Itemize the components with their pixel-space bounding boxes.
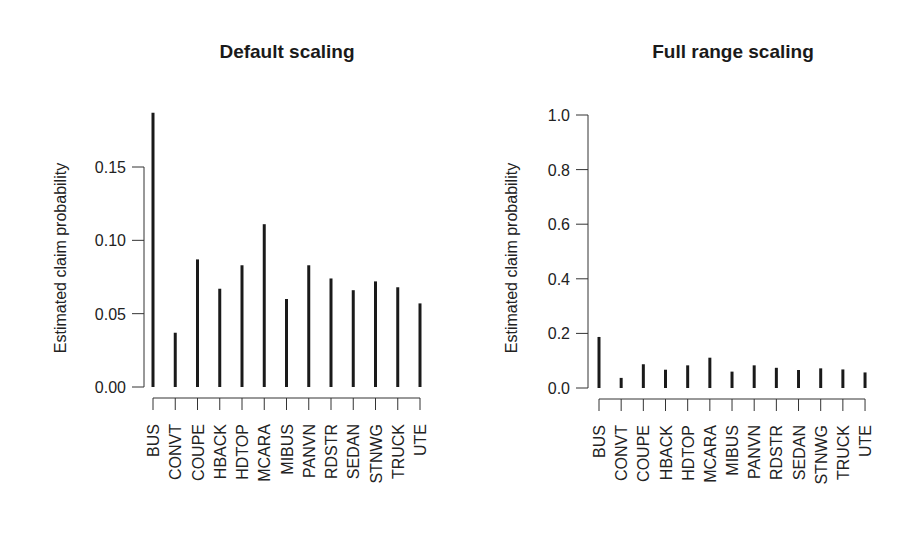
y-tick-label: 0.6 [548, 216, 570, 233]
y-tick-label: 0.4 [548, 271, 570, 288]
x-tick-label: SEDAN [345, 424, 362, 479]
x-tick-label: PANVN [746, 425, 763, 479]
x-tick-label: UTE [412, 424, 429, 456]
x-tick-label: COUPE [635, 425, 652, 482]
chart-full-range-scaling: Full range scaling Estimated claim proba… [503, 41, 874, 485]
x-axis: BUSCONVTCOUPEHBACKHDTOPMCARAMIBUSPANVNRD… [145, 398, 429, 484]
x-tick-label: BUS [145, 424, 162, 457]
y-tick-label: 0.10 [95, 232, 126, 249]
y-tick-label: 0.0 [548, 380, 570, 397]
x-tick-label: MIBUS [279, 424, 296, 475]
figure: Default scaling Estimated claim probabil… [0, 0, 911, 545]
y-axis: 0.000.050.100.15 [95, 159, 144, 396]
y-tick-label: 0.15 [95, 159, 126, 176]
chart-title: Default scaling [219, 41, 354, 62]
bar-series [153, 113, 420, 387]
x-tick-label: RDSTR [768, 425, 785, 480]
x-tick-label: BUS [591, 425, 608, 458]
x-tick-label: HBACK [658, 425, 675, 480]
x-tick-label: PANVN [301, 424, 318, 478]
x-tick-label: RDSTR [323, 424, 340, 479]
y-tick-label: 0.2 [548, 325, 570, 342]
x-tick-label: COUPE [190, 424, 207, 481]
x-tick-label: MCARA [702, 425, 719, 483]
x-tick-label: STNWG [368, 424, 385, 484]
bar-series [599, 337, 865, 388]
y-axis: 0.00.20.40.60.81.0 [548, 107, 588, 397]
chart-default-scaling: Default scaling Estimated claim probabil… [52, 41, 429, 484]
y-tick-label: 0.00 [95, 379, 126, 396]
y-tick-label: 0.8 [548, 162, 570, 179]
x-tick-label: TRUCK [835, 425, 852, 480]
x-tick-label: CONVT [167, 424, 184, 480]
x-tick-label: UTE [857, 425, 874, 457]
x-tick-label: SEDAN [791, 425, 808, 480]
x-tick-label: MIBUS [724, 425, 741, 476]
x-tick-label: MCARA [256, 424, 273, 482]
x-tick-label: HDTOP [680, 425, 697, 481]
x-tick-label: HDTOP [234, 424, 251, 480]
x-tick-label: TRUCK [390, 424, 407, 479]
x-axis: BUSCONVTCOUPEHBACKHDTOPMCARAMIBUSPANVNRD… [591, 399, 874, 485]
x-tick-label: CONVT [613, 425, 630, 481]
y-tick-label: 1.0 [548, 107, 570, 124]
y-tick-label: 0.05 [95, 306, 126, 323]
y-axis-label: Estimated claim probability [52, 163, 69, 353]
chart-title: Full range scaling [652, 41, 814, 62]
x-tick-label: HBACK [212, 424, 229, 479]
x-tick-label: STNWG [813, 425, 830, 485]
y-axis-label: Estimated claim probability [503, 163, 520, 353]
